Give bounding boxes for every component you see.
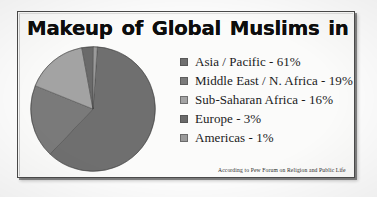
legend-label-europe: Europe - 3% [195,111,261,127]
source-attribution: According to Pew Forum on Religion and P… [218,167,346,173]
legend-swatch-icon-sub-saharan-africa [180,96,188,104]
legend-item-asia-pacific: Asia / Pacific - 61% [180,52,352,71]
chart-frame: Makeup of Global Muslims in 2010 Asia / … [17,11,355,178]
legend-swatch-icon-asia-pacific [180,58,188,66]
legend-swatch-icon-europe [180,115,188,123]
legend-label-americas: Americas - 1% [195,130,274,146]
pie-chart [24,44,184,176]
legend-label-sub-saharan-africa: Sub-Saharan Africa - 16% [195,92,333,108]
legend-item-middle-east-n-africa: Middle East / N. Africa - 19% [180,71,352,90]
legend-label-middle-east-n-africa: Middle East / N. Africa - 19% [195,73,353,89]
legend-item-europe: Europe - 3% [180,109,352,128]
legend-swatch-icon-middle-east-n-africa [180,77,188,85]
pie-slices [31,47,156,172]
pie-chart-svg [24,44,184,176]
chart-title: Makeup of Global Muslims in 2010 [27,16,344,40]
title-divider [24,42,350,43]
legend-item-sub-saharan-africa: Sub-Saharan Africa - 16% [180,90,352,109]
scanned-chart-page: Makeup of Global Muslims in 2010 Asia / … [0,0,377,197]
legend-item-americas: Americas - 1% [180,128,352,147]
legend-swatch-icon-americas [180,134,188,142]
chart-legend: Asia / Pacific - 61% Middle East / N. Af… [180,52,352,147]
legend-label-asia-pacific: Asia / Pacific - 61% [195,54,301,70]
